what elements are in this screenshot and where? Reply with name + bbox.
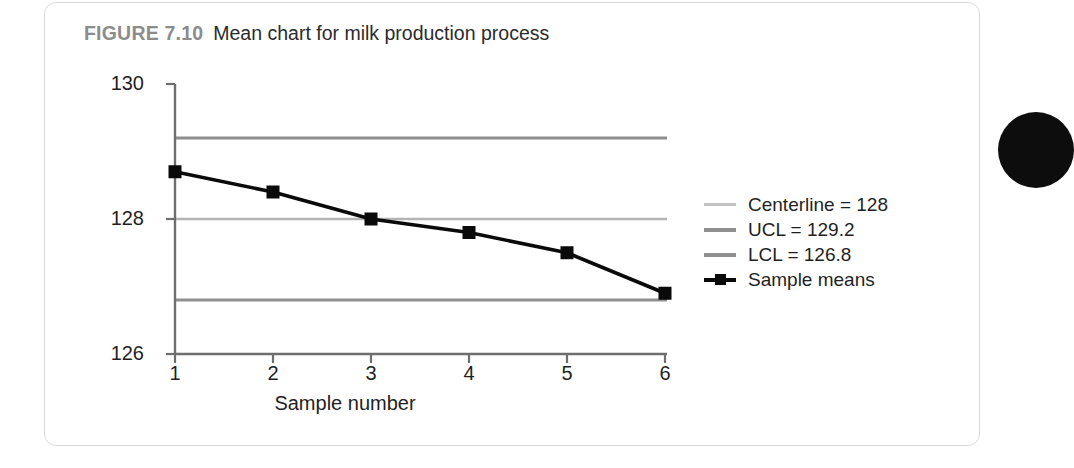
y-tick-label-128: 128 [84, 207, 144, 230]
figure-caption: Mean chart for milk production process [213, 22, 549, 44]
legend-item-lcl: LCL = 126.8 [702, 242, 937, 267]
x-tick-label-5: 5 [550, 362, 584, 385]
chart-legend: Centerline = 128 UCL = 129.2 LCL = 126.8… [702, 192, 937, 292]
legend-label-centerline: Centerline = 128 [748, 194, 888, 216]
x-tick-label-3: 3 [354, 362, 388, 385]
figure-title: FIGURE 7.10Mean chart for milk productio… [84, 20, 549, 46]
legend-label-lcl: LCL = 126.8 [748, 244, 851, 266]
x-tick-label-4: 4 [452, 362, 486, 385]
x-axis-title: Sample number [0, 392, 690, 415]
legend-swatch-lcl-icon [702, 242, 738, 267]
x-tick-label-6: 6 [648, 362, 682, 385]
y-tick-label-126: 126 [84, 342, 144, 365]
legend-item-sample-means: Sample means [702, 267, 937, 292]
legend-swatch-centerline-icon [702, 192, 738, 217]
legend-item-ucl: UCL = 129.2 [702, 217, 937, 242]
x-tick-label-1: 1 [158, 362, 192, 385]
legend-swatch-sample-means-icon [702, 267, 738, 292]
legend-item-centerline: Centerline = 128 [702, 192, 937, 217]
margin-bullet-decoration [998, 112, 1074, 188]
legend-swatch-ucl-icon [702, 217, 738, 242]
x-tick-label-2: 2 [256, 362, 290, 385]
figure-number: FIGURE 7.10 [84, 22, 203, 44]
legend-label-ucl: UCL = 129.2 [748, 219, 855, 241]
y-tick-label-130: 130 [84, 72, 144, 95]
legend-label-sample-means: Sample means [748, 269, 875, 291]
